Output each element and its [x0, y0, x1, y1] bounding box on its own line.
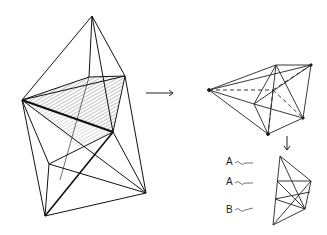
- label-b: B: [226, 204, 233, 215]
- medium-polyhedron: [208, 64, 313, 136]
- arrow-down-icon: [284, 136, 290, 150]
- sliced-piece: [273, 156, 311, 225]
- label-pointers: [235, 162, 253, 212]
- label-a-1: A: [226, 156, 233, 167]
- diagram-canvas: [0, 0, 327, 235]
- label-a-2: A: [226, 176, 233, 187]
- large-polyhedron: [22, 16, 146, 216]
- arrow-right-icon: [146, 90, 173, 96]
